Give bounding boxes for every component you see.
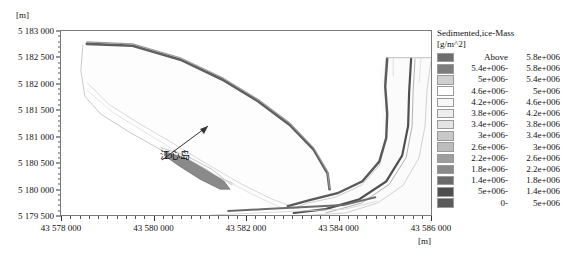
x-minor-tick [283, 216, 284, 219]
legend-label: Above5.8e+006 [458, 53, 563, 62]
legend-title: Sedimented,ice-Mass [437, 28, 563, 39]
plot-area [60, 30, 432, 216]
legend-range-low: Above [458, 53, 508, 62]
legend-row: 5e+006-1.4e+006 [437, 186, 563, 197]
legend-row: Above5.8e+006 [437, 52, 563, 63]
legend-label: 3e+006-3.4e+006 [458, 131, 563, 140]
x-minor-tick [302, 216, 303, 219]
legend-range-low: 0- [458, 199, 508, 208]
legend-range-high: 2.2e+006 [508, 165, 560, 174]
x-major-tick [61, 216, 62, 221]
x-tick-label: 43 578 000 [41, 224, 82, 233]
x-minor-tick [80, 216, 81, 219]
y-tick-label: 5 180 500 [18, 159, 54, 168]
legend-swatch [437, 98, 454, 108]
legend-range-high: 4.2e+006 [508, 109, 560, 118]
x-minor-tick [191, 216, 192, 219]
legend-range-low: 4.2e+006- [458, 98, 508, 107]
legend-row: 0-5e+006 [437, 197, 563, 208]
legend-range-high: 5.8e+006 [508, 64, 560, 73]
river-map-graphic [61, 31, 431, 215]
legend-range-high: 5.8e+006 [508, 53, 560, 62]
x-minor-tick [126, 216, 127, 219]
legend-row: 5e+006-5.4e+006 [437, 74, 563, 85]
legend: Sedimented,ice-Mass [g/m^2] Above5.8e+00… [437, 28, 563, 209]
legend-range-low: 3.8e+006- [458, 109, 508, 118]
x-minor-tick [89, 216, 90, 219]
legend-row: 2.6e+006-3e+006 [437, 142, 563, 153]
legend-range-low: 5e+006- [458, 187, 508, 196]
legend-swatch [437, 187, 454, 197]
x-minor-tick [413, 216, 414, 219]
legend-row: 1.8e+006-2.2e+006 [437, 164, 563, 175]
x-minor-tick [209, 216, 210, 219]
legend-unit: [g/m^2] [437, 39, 563, 50]
x-minor-tick [135, 216, 136, 219]
x-minor-tick [117, 216, 118, 219]
legend-range-low: 5e+006- [458, 75, 508, 84]
island-annotation-label: 江心岛 [160, 150, 190, 161]
legend-range-low: 5.4e+006- [458, 64, 508, 73]
legend-label: 3.8e+006-4.2e+006 [458, 109, 563, 118]
legend-row: 3.8e+006-4.2e+006 [437, 108, 563, 119]
legend-label: 2.2e+006-2.6e+006 [458, 154, 563, 163]
legend-row: 3e+006-3.4e+006 [437, 130, 563, 141]
legend-swatch [437, 120, 454, 130]
x-major-tick [154, 216, 155, 221]
x-minor-tick [163, 216, 164, 219]
legend-range-low: 3e+006- [458, 131, 508, 140]
legend-range-high: 2.6e+006 [508, 154, 560, 163]
x-minor-tick [228, 216, 229, 219]
x-minor-tick [329, 216, 330, 219]
legend-range-low: 2.2e+006- [458, 154, 508, 163]
x-tick-label: 43 584 000 [318, 224, 359, 233]
legend-label: 4.2e+006-4.6e+006 [458, 98, 563, 107]
x-tick-label: 43 580 000 [133, 224, 174, 233]
legend-range-high: 5e+006 [508, 87, 560, 96]
legend-range-high: 1.8e+006 [508, 176, 560, 185]
x-minor-tick [172, 216, 173, 219]
chart-root: [m] [m] 5 183 0005 182 5005 182 0005 181… [0, 0, 563, 257]
x-major-tick [431, 216, 432, 221]
legend-swatch [437, 198, 454, 208]
legend-swatch [437, 86, 454, 96]
x-minor-tick [107, 216, 108, 219]
x-minor-tick [274, 216, 275, 219]
legend-range-high: 5.4e+006 [508, 75, 560, 84]
legend-range-high: 3.8e+006 [508, 120, 560, 129]
x-minor-tick [366, 216, 367, 219]
legend-row: 5.4e+006-5.8e+006 [437, 63, 563, 74]
x-minor-tick [144, 216, 145, 219]
x-minor-tick [200, 216, 201, 219]
legend-swatch [437, 176, 454, 186]
legend-swatch [437, 109, 454, 119]
legend-label: 1.8e+006-2.2e+006 [458, 165, 563, 174]
legend-range-high: 3.4e+006 [508, 131, 560, 140]
x-minor-tick [255, 216, 256, 219]
y-tick-label: 5 181 000 [18, 132, 54, 141]
x-minor-tick [403, 216, 404, 219]
x-major-tick [339, 216, 340, 221]
y-tick-label: 5 181 500 [18, 106, 54, 115]
legend-row: 4.2e+006-4.6e+006 [437, 97, 563, 108]
legend-range-low: 1.8e+006- [458, 165, 508, 174]
legend-rows: Above5.8e+0065.4e+006-5.8e+0065e+006-5.4… [437, 52, 563, 209]
x-minor-tick [98, 216, 99, 219]
legend-label: 0-5e+006 [458, 199, 563, 208]
legend-range-high: 3e+006 [508, 143, 560, 152]
legend-swatch [437, 64, 454, 74]
legend-range-low: 2.6e+006- [458, 143, 508, 152]
legend-range-high: 4.6e+006 [508, 98, 560, 107]
x-minor-tick [348, 216, 349, 219]
x-minor-tick [385, 216, 386, 219]
x-minor-tick [320, 216, 321, 219]
legend-swatch [437, 142, 454, 152]
legend-swatch [437, 131, 454, 141]
x-minor-tick [394, 216, 395, 219]
legend-label: 2.6e+006-3e+006 [458, 143, 563, 152]
legend-row: 1.4e+006-1.8e+006 [437, 175, 563, 186]
legend-row: 3.4e+006-3.8e+006 [437, 119, 563, 130]
legend-swatch [437, 75, 454, 85]
x-tick-label: 43 582 000 [226, 224, 267, 233]
legend-swatch [437, 154, 454, 164]
